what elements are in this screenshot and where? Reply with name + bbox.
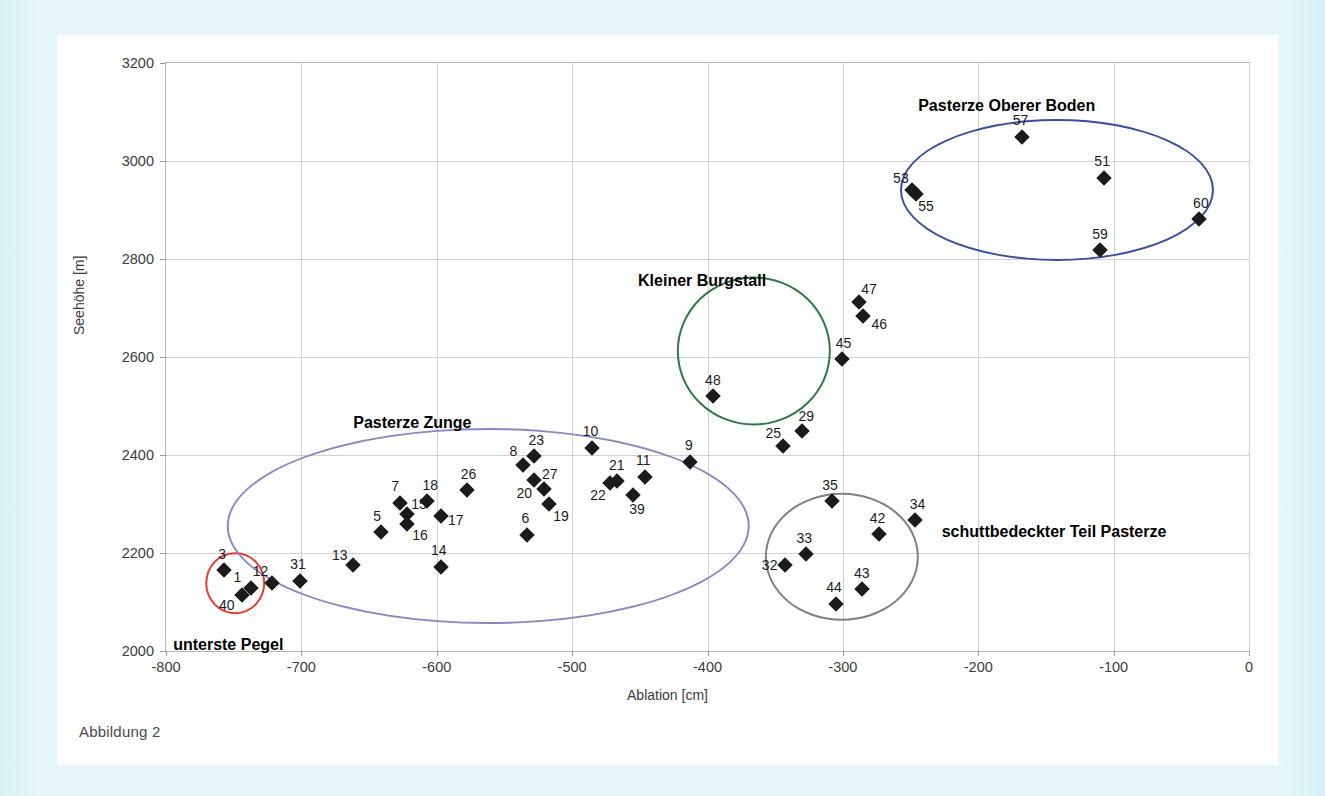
y-tick-label: 2000 [102,643,154,659]
x-axis-tick [437,651,438,656]
y-tick-label: 2400 [102,447,154,463]
y-axis-tick [160,553,166,554]
data-point-label: 18 [422,477,438,493]
cluster-label: unterste Pegel [173,636,283,654]
x-axis-tick [572,651,573,656]
y-axis-tick [160,357,166,358]
data-point-label: 9 [685,437,693,453]
y-tick-label: 3000 [102,153,154,169]
data-point-label: 19 [553,508,569,524]
data-point-label: 44 [826,579,842,595]
x-axis-tick [843,651,844,656]
cluster-ellipse-pasterze [900,119,1214,261]
y-tick-label: 2200 [102,545,154,561]
data-point[interactable] [794,424,810,440]
figure-caption: Abbildung 2 [79,723,160,740]
data-point-label: 25 [766,425,782,441]
y-tick-label: 3200 [102,55,154,71]
y-axis-title: Seehöhe [m] [71,256,87,335]
data-point[interactable] [855,309,871,325]
data-point-label: 33 [797,530,813,546]
data-point-label: 42 [870,510,886,526]
x-axis-tick [1114,651,1115,656]
x-tick-label: -100 [1099,659,1128,675]
x-tick-label: 0 [1245,659,1253,675]
plot-area: -800-700-600-500-400-300-200-10002000220… [165,62,1250,652]
data-point-label: 46 [871,316,887,332]
data-point-label: 12 [253,563,269,579]
scatter-chart: Seehöhe [m] -800-700-600-500-400-300-200… [57,35,1278,695]
data-point-label: 53 [893,170,909,186]
data-point-label: 3 [218,546,226,562]
y-tick-label: 2800 [102,251,154,267]
x-tick-label: -800 [151,659,180,675]
x-tick-label: -600 [422,659,451,675]
y-axis-tick [160,651,166,652]
data-point-label: 26 [461,466,477,482]
data-point-label: 6 [522,510,530,526]
data-point-label: 51 [1094,153,1110,169]
data-point[interactable] [834,351,850,367]
data-point-label: 34 [910,496,926,512]
data-point-label: 29 [798,408,814,424]
x-tick-label: -200 [964,659,993,675]
x-axis-tick [1249,651,1250,656]
data-point-label: 59 [1092,226,1108,242]
y-tick-label: 2600 [102,349,154,365]
data-point-label: 40 [219,597,235,613]
x-axis-tick [708,651,709,656]
y-axis-tick [160,63,166,64]
data-point-label: 47 [861,281,877,297]
data-point-label: 32 [762,557,778,573]
x-axis-tick [978,651,979,656]
data-point-label: 35 [822,477,838,493]
cluster-label: schuttbedeckter Teil Pasterze [942,523,1167,541]
data-point-label: 5 [373,508,381,524]
data-point-label: 8 [509,443,517,459]
data-point-label: 39 [629,501,645,517]
data-point-label: 23 [528,432,544,448]
data-point-label: 57 [1013,112,1029,128]
data-point-label: 22 [590,487,606,503]
data-point-label: 13 [332,547,348,563]
data-point[interactable] [907,512,923,528]
cluster-ellipse-pasterze [227,428,750,624]
data-point-label: 16 [412,527,428,543]
x-tick-label: -400 [693,659,722,675]
data-point-label: 43 [854,565,870,581]
data-point-label: 20 [516,485,532,501]
data-point-label: 60 [1193,195,1209,211]
figure-panel: Seehöhe [m] -800-700-600-500-400-300-200… [57,35,1278,765]
data-point-label: 17 [448,512,464,528]
data-point-label: 27 [542,466,558,482]
cluster-label: Pasterze Zunge [353,414,471,432]
data-point-label: 10 [583,423,599,439]
y-axis-tick [160,455,166,456]
data-point-label: 7 [391,478,399,494]
data-point-label: 1 [233,569,241,585]
cluster-label: Kleiner Burgstall [638,272,766,290]
x-tick-label: -300 [828,659,857,675]
data-point-label: 21 [609,457,625,473]
x-axis-tick [166,651,167,656]
cluster-label: Pasterze Oberer Boden [918,97,1095,115]
y-axis-tick [160,161,166,162]
x-tick-label: -500 [558,659,587,675]
x-tick-label: -700 [287,659,316,675]
cluster-ellipse-kleiner [676,276,830,425]
data-point-label: 11 [636,452,651,468]
x-axis-title: Ablation [cm] [57,687,1278,703]
data-point-label: 14 [431,542,447,558]
data-point-label: 31 [290,556,306,572]
data-point-label: 45 [836,335,852,351]
data-point-label: 55 [918,198,934,214]
x-axis-tick [301,651,302,656]
y-axis-tick [160,259,166,260]
x-gridline [1249,63,1250,651]
data-point-label: 48 [705,372,721,388]
